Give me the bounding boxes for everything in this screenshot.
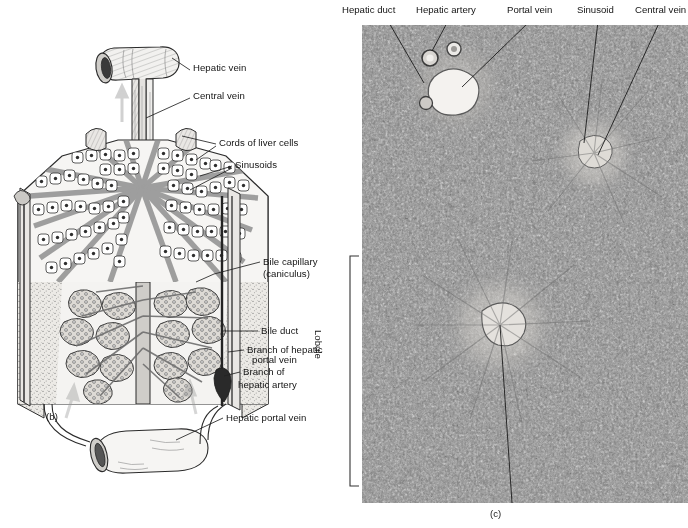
label-branch-of: Branch of — [243, 366, 285, 377]
label-hepatic-portal-vein: Hepatic portal vein — [226, 412, 306, 423]
label-cords-of-liver-cells: Cords of liver cells — [219, 137, 298, 148]
label-sinusoids: Sinusoids — [235, 159, 277, 170]
portal-triad-left — [14, 188, 30, 406]
label-hepatic-vein: Hepatic vein — [193, 62, 246, 73]
panel-c-micrograph: Hepatic duct Hepatic artery Portal vein … — [340, 0, 688, 528]
micrograph-label-row: Hepatic duct Hepatic artery Portal vein … — [340, 4, 688, 20]
portal-vein-lumen — [428, 69, 479, 115]
lobule-bracket — [346, 255, 360, 487]
micrograph-image — [362, 25, 688, 503]
label-central-vein: Central vein — [193, 90, 245, 101]
portal-triad-region — [404, 35, 508, 139]
label-bile-capillary: Bile capillary — [263, 256, 318, 267]
figure-liver-lobule: Hepatic vein Central vein Cords of liver… — [0, 0, 688, 528]
blood-flow-arrow-up — [117, 86, 127, 122]
micro-label-central-vein: Central vein — [635, 4, 686, 15]
panel-c-caption: (c) — [490, 508, 501, 519]
micro-label-portal-vein: Portal vein — [507, 4, 552, 15]
lobule-bracket-label: Lobule — [313, 330, 324, 359]
label-portal-vein-line2: portal vein — [252, 354, 297, 365]
micro-label-sinusoid: Sinusoid — [577, 4, 614, 15]
micro-label-hepatic-artery: Hepatic artery — [416, 4, 476, 15]
label-bile-duct: Bile duct — [261, 325, 298, 336]
panel-b-caption: (b) — [46, 411, 58, 422]
label-hepatic-artery: hepatic artery — [238, 379, 297, 390]
hepatic-portal-vein-shape — [44, 404, 226, 473]
panel-b-diagram: Hepatic vein Central vein Cords of liver… — [0, 0, 340, 528]
label-canaliculus: (caniculus) — [263, 268, 310, 279]
micro-label-hepatic-duct: Hepatic duct — [342, 4, 395, 15]
